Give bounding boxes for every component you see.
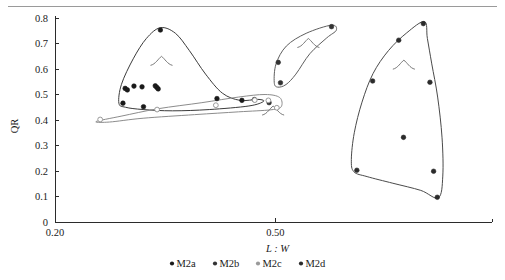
legend-marker-m2c — [256, 261, 260, 265]
data-point — [431, 169, 436, 174]
data-point — [158, 28, 163, 33]
data-point — [276, 60, 281, 65]
y-tick-label: 0.2 — [35, 166, 48, 177]
legend-label-m2a[interactable]: M2a — [177, 258, 197, 269]
x-tick-label: 0.50 — [266, 227, 284, 238]
data-point — [278, 80, 283, 85]
axis-lines — [55, 16, 492, 222]
x-axis-title: L : W — [265, 243, 290, 254]
molar-glyph-icon — [393, 60, 415, 69]
data-point — [141, 104, 146, 109]
legend-label-m2d[interactable]: M2d — [306, 258, 327, 269]
data-point — [140, 85, 145, 90]
figure-container: 0.80.70.60.50.40.30.20.10QR0.200.50L : W… — [0, 0, 505, 280]
data-point — [132, 84, 137, 89]
hull-m2d — [351, 21, 443, 198]
y-tick-label: 0.7 — [35, 38, 48, 49]
data-point — [252, 98, 257, 103]
series-m2c — [98, 98, 279, 122]
data-point — [435, 195, 440, 200]
y-tick-label: 0.8 — [35, 13, 48, 24]
data-point — [156, 87, 161, 92]
molar-glyph-icon — [150, 56, 172, 65]
y-tick-label: 0.5 — [35, 89, 48, 100]
data-point — [370, 79, 375, 84]
data-point — [215, 96, 220, 101]
axis-group — [55, 16, 492, 222]
data-point — [240, 98, 245, 103]
data-point — [421, 21, 426, 26]
data-point — [121, 101, 126, 106]
x-axis-ticks: 0.200.50 — [46, 218, 492, 238]
y-tick-label: 0.1 — [35, 191, 48, 202]
legend: M2aM2bM2cM2d — [170, 258, 326, 269]
y-tick-label: 0.3 — [35, 140, 48, 151]
data-point — [125, 88, 130, 93]
legend-marker-m2d — [299, 261, 303, 265]
data-point — [329, 24, 334, 29]
scatter-plot: 0.80.70.60.50.40.30.20.10QR0.200.50L : W… — [0, 0, 505, 280]
legend-label-m2c[interactable]: M2c — [263, 258, 283, 269]
data-point — [401, 135, 406, 140]
hull-m2b — [274, 25, 336, 87]
data-point — [355, 168, 360, 173]
data-point — [428, 80, 433, 85]
data-point — [274, 105, 279, 110]
data-point — [396, 38, 401, 43]
y-tick-label: 0.6 — [35, 64, 48, 75]
y-tick-label: 0.4 — [35, 115, 49, 126]
legend-label-m2b[interactable]: M2b — [220, 258, 240, 269]
x-tick-label: 0.20 — [46, 227, 64, 238]
data-point — [98, 117, 103, 122]
series-m2d — [355, 21, 440, 199]
y-axis-title: QR — [9, 119, 20, 134]
legend-marker-m2b — [213, 261, 217, 265]
series-m2a — [121, 28, 257, 109]
data-point — [213, 103, 218, 108]
legend-marker-m2a — [170, 261, 174, 265]
data-point — [155, 107, 160, 112]
molar-glyph-icon — [297, 39, 319, 48]
data-point — [266, 98, 271, 103]
y-tick-label: 0 — [43, 217, 48, 228]
